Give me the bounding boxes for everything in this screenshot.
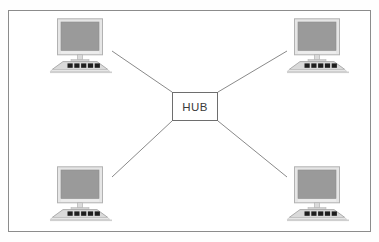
network-diagram-canvas: HUB bbox=[0, 0, 379, 242]
hub-node[interactable] bbox=[173, 93, 218, 121]
network-topology-diagram bbox=[0, 0, 379, 242]
